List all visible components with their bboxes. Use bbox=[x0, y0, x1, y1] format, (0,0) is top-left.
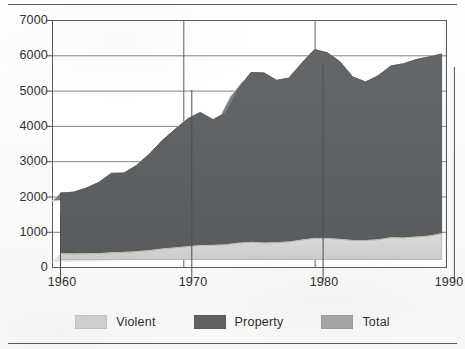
y-tick-4000: 4000 bbox=[4, 120, 48, 132]
legend-item-total: Total bbox=[321, 315, 389, 329]
legend-swatch-violent-icon bbox=[75, 315, 107, 329]
legend-label-property: Property bbox=[235, 315, 284, 329]
x-tick-1970: 1970 bbox=[170, 275, 216, 289]
x-axis-labels: 1960 1970 1980 1990 bbox=[0, 275, 465, 295]
y-tick-2000: 2000 bbox=[4, 191, 48, 203]
y-tick-1000: 1000 bbox=[4, 226, 48, 238]
y-tick-7000: 7000 bbox=[4, 14, 48, 26]
legend-item-property: Property bbox=[194, 315, 284, 329]
y-tick-3000: 3000 bbox=[4, 155, 48, 167]
crime-rate-area-chart: 7000 6000 5000 4000 3000 2000 1000 0 196… bbox=[0, 0, 465, 349]
legend-item-violent: Violent bbox=[75, 315, 155, 329]
x-tick-1980: 1980 bbox=[301, 275, 347, 289]
legend-swatch-total-icon bbox=[321, 315, 353, 329]
x-tick-1990: 1990 bbox=[426, 275, 465, 289]
x-tick-1960: 1960 bbox=[39, 275, 85, 289]
legend-label-violent: Violent bbox=[116, 315, 155, 329]
y-tick-6000: 6000 bbox=[4, 49, 48, 61]
y-tick-5000: 5000 bbox=[4, 85, 48, 97]
plot-area bbox=[0, 0, 465, 300]
chart-legend: Violent Property Total bbox=[0, 310, 465, 334]
y-axis-labels: 7000 6000 5000 4000 3000 2000 1000 0 bbox=[0, 0, 48, 290]
legend-swatch-property-icon bbox=[194, 315, 226, 329]
y-tick-0: 0 bbox=[4, 261, 48, 273]
legend-label-total: Total bbox=[362, 315, 389, 329]
